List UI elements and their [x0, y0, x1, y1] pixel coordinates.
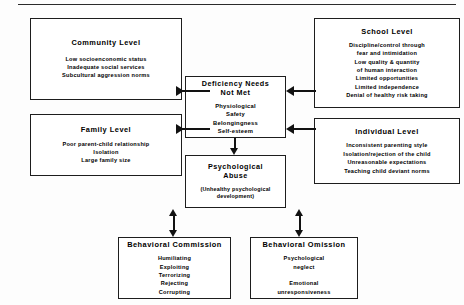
connector-school-to-center-arrowhead: [286, 86, 294, 96]
box-individual-level: Individual Level Inconsistent parenting …: [314, 118, 460, 184]
box-psychological-abuse: Psychological Abuse (Unhealthy psycholog…: [185, 155, 286, 208]
connector-community-to-center-arrowhead: [176, 86, 184, 96]
connector-individual-to-center-line: [294, 128, 316, 130]
box-individual-level-title: Individual Level: [355, 127, 418, 136]
connector-community-to-center-line: [182, 90, 210, 92]
box-family-level-title: Family Level: [81, 125, 131, 134]
connector-family-to-center-arrowhead: [176, 124, 184, 134]
box-behavioral-commission-title: Behavioral Commission: [127, 240, 222, 249]
connector-individual-to-center-arrowhead: [286, 124, 294, 134]
box-school-level-title: School Level: [361, 27, 413, 36]
connector-center-to-abuse-arrowhead: [230, 148, 238, 155]
box-psychological-abuse-title: Psychological Abuse: [208, 162, 263, 181]
connector-abuse-commission-arrowhead-down: [169, 230, 177, 237]
box-family-level: Family Level Poor parent-child relations…: [30, 114, 182, 176]
connector-abuse-omission-arrowhead-down: [295, 230, 303, 237]
box-behavioral-commission: Behavioral Commission Humiliating Exploi…: [118, 237, 231, 299]
connector-school-to-center-line: [294, 90, 316, 92]
box-deficiency-needs-items: Physiological Safety Belongingness Self-…: [213, 102, 258, 136]
box-deficiency-needs-title: Deficiency Needs Not Met: [202, 79, 270, 97]
box-behavioral-commission-items: Humiliating Exploiting Terrorizing Rejec…: [158, 254, 191, 296]
box-school-level-items: Discipline/control through fear and inti…: [346, 41, 428, 100]
box-psychological-abuse-subtext: (Unhealthy psychological development): [200, 186, 270, 201]
box-behavioral-omission: Behavioral Omission Psychological neglec…: [250, 237, 358, 299]
box-community-level: Community Level Low socioenconomic statu…: [30, 18, 182, 100]
box-school-level: School Level Discipline/control through …: [314, 18, 460, 108]
top-divider-rule: [18, 4, 456, 5]
connector-abuse-commission-arrowhead-up: [169, 209, 177, 216]
box-individual-level-items: Inconsistent parenting style Isolation/r…: [343, 141, 430, 175]
diagram-canvas: Community Level Low socioenconomic statu…: [0, 0, 464, 305]
box-community-level-title: Community Level: [71, 38, 140, 47]
connector-abuse-omission-arrowhead-up: [295, 209, 303, 216]
connector-family-to-center-line: [182, 128, 210, 130]
box-behavioral-omission-items: Psychological neglect Emotional unrespon…: [277, 254, 330, 296]
box-community-level-items: Low socioenconomic status Inadequate soc…: [62, 55, 150, 80]
box-behavioral-omission-title: Behavioral Omission: [262, 240, 345, 249]
box-family-level-items: Poor parent-child relationship Isolation…: [62, 140, 149, 165]
